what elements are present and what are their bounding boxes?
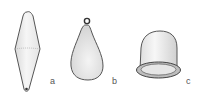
label-b: b	[112, 77, 117, 86]
label-a: a	[50, 77, 55, 86]
sinker-b	[71, 18, 103, 80]
sinker-a	[15, 12, 40, 92]
sinker-figure: a b c	[0, 0, 198, 101]
sinker-drawing	[0, 0, 198, 101]
sinker-c	[137, 31, 181, 78]
label-c: c	[186, 77, 191, 86]
